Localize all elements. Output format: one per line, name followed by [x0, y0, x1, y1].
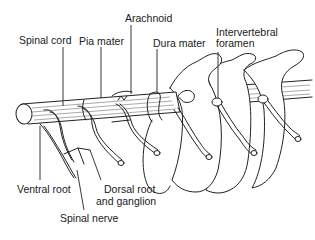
leader-dorsal-root	[90, 150, 101, 180]
label-spinal-cord: Spinal cord	[19, 35, 72, 46]
label-dorsal-root-line2: and ganglion	[96, 196, 156, 207]
leader-spinal-nerve	[77, 170, 84, 210]
spinal-cord-cylinder	[15, 91, 180, 124]
label-spinal-nerve: Spinal nerve	[60, 213, 118, 224]
label-intervertebral-foramen-line2: foramen	[216, 38, 255, 49]
label-pia-mater: Pia mater	[79, 36, 124, 47]
spinal-anatomy-diagram: Spinal cord Pia mater Arachnoid Dura mat…	[0, 0, 315, 240]
label-ventral-root: Ventral root	[17, 184, 71, 195]
label-dura-mater: Dura mater	[153, 38, 206, 49]
label-arachnoid: Arachnoid	[125, 13, 172, 24]
label-dorsal-root-line1: Dorsal root	[104, 184, 155, 195]
